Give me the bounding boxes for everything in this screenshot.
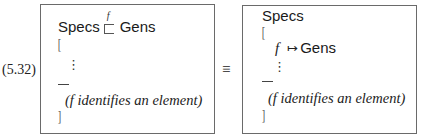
left-head-target: Gens bbox=[120, 18, 156, 35]
left-schema-header: SpecsfGens bbox=[58, 18, 156, 35]
entry-target: Gens bbox=[300, 39, 336, 56]
left-vdots: ⋮ bbox=[67, 58, 80, 71]
left-comment: (f identifies an element) bbox=[65, 92, 202, 109]
left-close-bracket: ] bbox=[58, 108, 62, 125]
maps-to-arrow-icon: ↦ bbox=[287, 41, 298, 56]
left-head-source: Specs bbox=[58, 18, 100, 35]
right-entry: f ↦Gens bbox=[275, 39, 336, 57]
equation-number: (5.32) bbox=[2, 62, 36, 78]
right-separator-rule bbox=[262, 81, 273, 82]
entry-variable: f bbox=[275, 40, 279, 56]
right-head: Specs bbox=[262, 7, 304, 24]
right-vdots: ⋮ bbox=[273, 60, 286, 73]
left-separator-rule bbox=[58, 84, 69, 85]
inclusion-arrow-icon: f bbox=[103, 19, 117, 35]
right-comment: (f identifies an element) bbox=[268, 90, 405, 107]
right-close-bracket: ] bbox=[262, 107, 266, 124]
right-schema-box bbox=[242, 5, 417, 134]
right-open-bracket: [ bbox=[262, 24, 266, 41]
equivalence-symbol: ≡ bbox=[222, 61, 230, 78]
left-open-bracket: [ bbox=[58, 36, 62, 53]
arrow-label: f bbox=[107, 10, 110, 21]
